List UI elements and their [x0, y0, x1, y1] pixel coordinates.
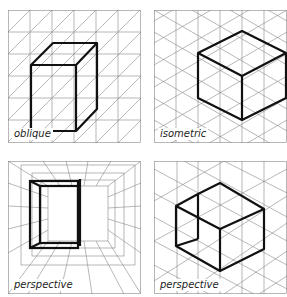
label-isometric: isometric	[158, 128, 208, 140]
label-oblique: oblique	[12, 128, 53, 140]
label-perspective-two-point: perspective	[158, 279, 221, 291]
isometric-grid-drawing	[154, 10, 287, 143]
two-point-perspective-drawing	[154, 161, 287, 294]
panel-perspective-two-point: perspective	[154, 161, 287, 294]
panel-oblique: oblique	[8, 10, 141, 143]
panel-isometric: isometric	[154, 10, 287, 143]
oblique-grid-drawing	[8, 10, 141, 143]
panel-perspective-one-point: perspective	[8, 161, 141, 294]
one-point-perspective-drawing	[8, 161, 141, 294]
label-perspective-one-point: perspective	[12, 279, 75, 291]
